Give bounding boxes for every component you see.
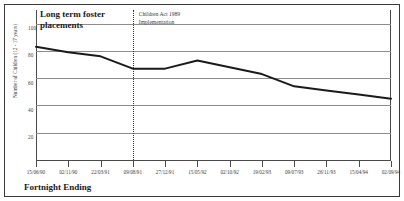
x-axis-tick-mark (230, 161, 231, 167)
y-axis-tick-label: 20 (28, 134, 54, 140)
figure-border-bottom (4, 196, 400, 197)
chart-title: Long term foster placements (40, 9, 130, 30)
annotation-line-1: Children Act 1989 (139, 11, 259, 19)
x-axis-tick-mark (294, 161, 295, 167)
x-axis-line (36, 160, 391, 161)
y-axis-title: Number of Children (12 - 17 years) (12, 0, 18, 136)
event-annotation-label: Children Act 1989 Implementation (139, 11, 259, 26)
x-axis-tick-mark (326, 161, 327, 167)
chart-figure: Number of Children (12 - 17 years) 10080… (0, 0, 404, 201)
x-axis-tick-mark (36, 161, 37, 167)
x-axis-tick-mark (197, 161, 198, 167)
y-axis-tick-label: 80 (28, 52, 54, 58)
y-axis-tick-label: 60 (28, 80, 54, 86)
x-axis-tick-mark (262, 161, 263, 167)
x-axis-tick-mark (165, 161, 166, 167)
figure-border-top (4, 4, 400, 5)
x-axis-tick-mark (133, 161, 134, 167)
x-axis-tick-mark (101, 161, 102, 167)
event-marker-line (133, 10, 134, 162)
data-series-line (36, 10, 391, 160)
x-axis-title: Fortnight Ending (24, 182, 91, 192)
x-axis-tick-mark (359, 161, 360, 167)
x-axis-tick-mark (68, 161, 69, 167)
x-axis-tick-label: 02/09/94 (369, 169, 404, 175)
y-axis-tick-label: 40 (28, 107, 54, 113)
figure-border-left (4, 4, 5, 197)
annotation-line-2: Implementation (139, 19, 259, 27)
plot-area (36, 10, 391, 160)
x-axis-tick-mark (391, 161, 392, 167)
